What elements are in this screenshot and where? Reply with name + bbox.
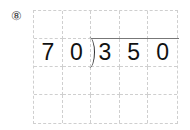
- division-bar: [91, 38, 179, 39]
- grid-cell[interactable]: [34, 67, 63, 95]
- grid-cell[interactable]: [91, 11, 120, 39]
- grid-cell[interactable]: [120, 11, 149, 39]
- grid-cell[interactable]: [120, 67, 149, 95]
- grid-cell[interactable]: [63, 67, 92, 95]
- problem-number: ⑧: [11, 9, 22, 23]
- answer-grid: 7 0 3 5 0: [33, 10, 178, 124]
- grid-cell[interactable]: [34, 95, 63, 123]
- grid-cell[interactable]: [34, 11, 63, 39]
- dividend-digit: 5: [120, 39, 149, 67]
- grid-cell[interactable]: [148, 11, 177, 39]
- dividend-digit: 3: [91, 39, 120, 67]
- grid-cell[interactable]: [91, 95, 120, 123]
- grid-cell[interactable]: [63, 11, 92, 39]
- grid-cell[interactable]: [148, 67, 177, 95]
- grid-cell[interactable]: [63, 95, 92, 123]
- grid-cell[interactable]: [120, 95, 149, 123]
- grid-cell[interactable]: [91, 67, 120, 95]
- dividend-digit: 0: [148, 39, 177, 67]
- grid-cell[interactable]: [148, 95, 177, 123]
- divisor-digit: 7: [34, 39, 63, 67]
